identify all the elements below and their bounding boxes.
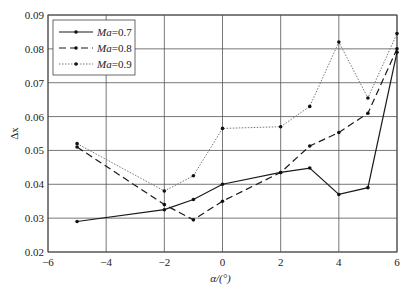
data-point [308,105,312,109]
y-tick-label: 0.04 [25,178,45,190]
data-point [192,198,196,202]
data-point [337,193,341,197]
data-point [163,208,167,212]
y-tick-label: 0.02 [25,246,44,258]
legend-entry: Ma=0.8 [96,42,132,54]
data-point [279,125,283,129]
legend-entry: Ma=0.7 [96,26,132,38]
legend: Ma=0.7Ma=0.8Ma=0.9 [53,20,135,75]
data-point [192,174,196,178]
data-point [366,186,370,190]
data-point [366,111,370,115]
data-point [75,220,79,224]
x-tick-label: 4 [336,256,342,268]
data-point [337,40,341,44]
x-tick-label: 2 [278,256,284,268]
data-point [221,127,225,131]
y-tick-label: 0.07 [25,77,45,89]
x-tick-label: 0 [220,256,226,268]
data-point [192,218,196,222]
data-point [75,142,79,146]
series-ma-0-7 [75,50,399,223]
data-point [221,199,225,203]
y-tick-label: 0.03 [25,212,45,224]
data-point [366,96,370,100]
data-point [279,171,283,175]
x-axis-label: α/(°) [210,272,231,285]
y-tick-label: 0.05 [25,144,45,156]
x-tick-label: −4 [100,256,112,268]
data-point [163,203,167,207]
legend-entry: Ma=0.9 [96,58,132,70]
line-chart: −6−4−202460.020.030.040.050.060.070.080.… [0,0,408,289]
data-point [308,166,312,170]
data-point [337,131,341,135]
y-tick-label: 0.08 [25,43,45,55]
y-tick-label: 0.09 [25,9,45,21]
x-tick-label: −2 [158,256,170,268]
x-tick-label: 6 [394,256,400,268]
y-axis-label: Δx [8,127,20,140]
data-point [308,144,312,148]
data-point [395,32,399,36]
y-tick-label: 0.06 [25,111,45,123]
data-point [163,189,167,193]
data-point [395,47,399,51]
data-point [221,182,225,186]
data-point [75,145,79,149]
